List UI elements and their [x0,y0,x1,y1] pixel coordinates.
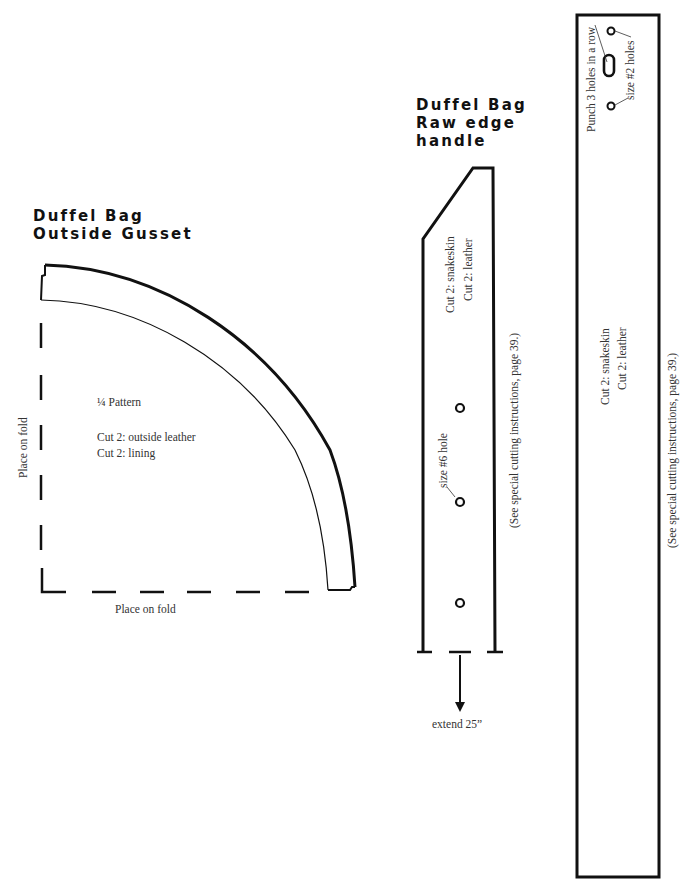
handle-instructions: (See special cutting instructions, page … [508,333,520,528]
handle-hole-leader [447,487,455,497]
gusset-fold-label-left: Place on fold [17,417,29,478]
gusset-notch-bottom [328,587,355,590]
handle-hole-2 [456,498,464,506]
strap-hole-top [608,28,615,35]
handle-title-line3: handle [416,132,527,150]
handle-cut-leather: Cut 2: leather [462,238,474,301]
gusset-pattern-label: ¼ Pattern [97,396,141,408]
gusset-cut-lining: Cut 2: lining [97,447,155,459]
gusset-outer-edge [45,265,355,587]
gusset-cut-outside: Cut 2: outside leather [97,431,196,443]
strap-cut-snakeskin: Cut 2: snakeskin [599,328,611,405]
fold-line-left [41,323,66,592]
gusset-notch-top [41,265,45,300]
handle-hole-label: size #6 hole [437,433,449,488]
handle-outline [423,168,495,652]
strap-punch-label: Punch 3 holes in a row [585,27,597,132]
strap-hole-size-label: size #2 holes [624,41,636,100]
strap-cut-leather: Cut 2: leather [616,327,628,390]
gusset-inner-edge [41,300,328,590]
strap-hole-bottom [608,103,615,110]
strap-instructions: (See special cutting instructions, page … [666,353,678,548]
extend-arrow-head [455,702,465,712]
gusset-title-line2: Outside Gusset [33,225,193,243]
handle-title-line2: Raw edge [416,114,527,132]
handle-extend-label: extend 25” [432,718,482,730]
strap-leader-size-1 [615,31,631,37]
handle-cut-snakeskin: Cut 2: snakeskin [444,236,456,313]
gusset-fold-label-bottom: Place on fold [115,603,176,615]
handle-title: Duffel Bag Raw edge handle [416,96,527,150]
handle-hole-3 [456,599,464,607]
gusset-title-line1: Duffel Bag [33,207,193,225]
strap-outline [577,15,659,877]
gusset-title: Duffel Bag Outside Gusset [33,207,193,243]
handle-title-line1: Duffel Bag [416,96,527,114]
handle-hole-1 [456,404,464,412]
